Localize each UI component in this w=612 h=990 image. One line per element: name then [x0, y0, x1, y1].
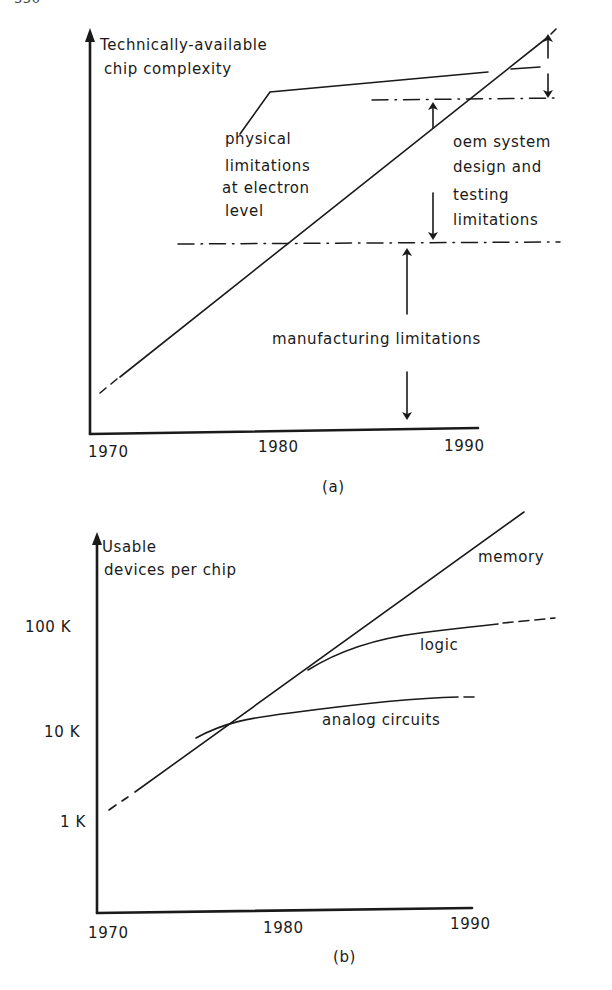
page-number: 330 — [14, 0, 41, 6]
panel-b-memory-dash-2 — [122, 797, 128, 801]
panel-b-logic-dash — [503, 618, 555, 623]
panel-a-trend-dash-end — [551, 29, 556, 34]
panel-a-y-label-line1: Technically-available — [99, 36, 267, 54]
panel-a-trend-dash-start — [100, 388, 106, 393]
physical-label-line4: level — [225, 202, 264, 220]
panel-b-y-label-line1: Usable — [102, 538, 157, 556]
panel-a-physical-label: physical limitations at electron level — [222, 130, 310, 220]
panel-a-y-label-line2: chip complexity — [104, 60, 232, 78]
physical-label-line1: physical — [225, 130, 291, 148]
panel-a: Technically-available chip complexity ph… — [85, 28, 560, 496]
page-number-text: 330 — [14, 0, 41, 6]
panel-a-trend-line — [120, 37, 548, 377]
panel-a-physical-limit-line — [240, 72, 488, 134]
panel-a-x-tick-1990: 1990 — [444, 437, 485, 455]
panel-a-oem-label: oem system design and testing limitation… — [453, 133, 551, 229]
panel-a-physical-limit-dash — [511, 67, 540, 69]
panel-a-y-axis-arrow-icon — [85, 28, 95, 42]
panel-b-x-tick-1990: 1990 — [450, 915, 491, 933]
physical-label-line2: limitations — [225, 157, 310, 175]
panel-b-memory-dash-1 — [109, 805, 116, 810]
panel-b-y-tick-10k: 10 K — [44, 723, 81, 741]
panel-b-y-axis-arrow-icon — [92, 532, 102, 545]
oem-label-line1: oem system — [453, 133, 551, 151]
physical-label-line3: at electron — [222, 179, 310, 197]
panel-b-y-tick-1k: 1 K — [60, 813, 87, 831]
panel-b: Usable devices per chip 100 K 10 K 1 K m… — [25, 512, 555, 966]
panel-b-label-analog: analog circuits — [322, 711, 440, 729]
panel-a-x-tick-1980: 1980 — [258, 438, 299, 456]
panel-b-memory-line — [135, 512, 524, 792]
panel-a-trend-dash-start-2 — [111, 379, 117, 384]
panel-a-caption: (a) — [322, 478, 345, 496]
panel-b-x-tick-1980: 1980 — [263, 919, 304, 937]
panel-b-x-tick-1970: 1970 — [88, 924, 129, 942]
figure: 330 Technically-available chip complexit… — [0, 0, 612, 990]
panel-a-lower-threshold — [178, 242, 560, 244]
oem-label-line2: design and — [453, 158, 542, 176]
panel-a-x-axis — [90, 428, 478, 434]
panel-a-x-tick-1970: 1970 — [88, 443, 129, 461]
panel-a-upper-threshold — [372, 98, 560, 100]
oem-label-line4: limitations — [453, 211, 538, 229]
panel-b-y-tick-100k: 100 K — [25, 618, 72, 636]
panel-b-caption: (b) — [333, 948, 356, 966]
panel-b-x-axis — [97, 908, 472, 913]
panel-b-y-label-line2: devices per chip — [104, 561, 237, 579]
panel-b-label-logic: logic — [420, 636, 458, 654]
oem-label-line3: testing — [453, 186, 509, 204]
panel-a-manufacturing-label: manufacturing limitations — [272, 330, 481, 348]
panel-b-label-memory: memory — [478, 548, 544, 566]
